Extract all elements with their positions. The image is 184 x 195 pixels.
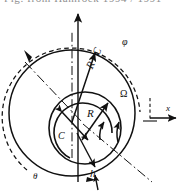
clearance-label: C: [58, 131, 65, 141]
radius-arrow: [82, 103, 108, 140]
circumferential-angle-label: θ: [33, 172, 37, 181]
film-thickness-label: h: [90, 168, 96, 179]
clearance-double-arrow: [62, 112, 88, 140]
radius-label: R: [87, 108, 94, 119]
attitude-angle-label: φ: [122, 37, 128, 47]
journal-bearing-diagram: [0, 0, 184, 195]
x-axis-label: x: [166, 104, 170, 113]
angular-velocity-label: Ω: [120, 89, 127, 99]
figure-container: Fig. from Hamrock 1994 / 1991: [0, 0, 184, 195]
centerline-upper-left: [25, 62, 82, 122]
attitude-arc-arrow-head: [24, 50, 32, 62]
rotation-arrow-inner: [100, 122, 104, 140]
